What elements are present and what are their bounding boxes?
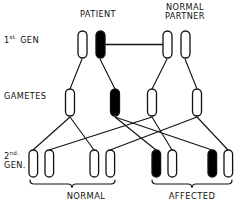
chromosome-gamete-1-normal	[66, 89, 75, 116]
header-partner-line2: PARTNER	[165, 11, 205, 21]
meiosis-line-patient-b	[100, 59, 115, 89]
fert-line-g4-o8	[197, 117, 228, 150]
gen2-offspring-2-normal	[90, 150, 115, 177]
fert-line-g2-o7	[115, 117, 212, 150]
chromosome-gamete-3-normal	[148, 89, 157, 116]
chromosome-offspring-2a-normal	[90, 150, 99, 177]
chromosome-offspring-4a-affected	[208, 150, 217, 177]
gametes-group	[66, 89, 202, 116]
chromosome-offspring-2b-normal	[106, 150, 115, 177]
meiosis-lines	[70, 59, 197, 89]
chromosome-gamete-4-normal	[193, 89, 202, 116]
fert-line-g1-o3	[70, 117, 94, 150]
chromosome-offspring-4b-normal	[224, 150, 233, 177]
fertilization-lines	[33, 117, 228, 150]
brace-normal	[30, 180, 115, 188]
chromosome-offspring-1a-normal	[29, 150, 38, 177]
chromosome-patient-affected	[96, 31, 105, 58]
chromosome-offspring-1b-normal	[45, 150, 54, 177]
gen2-text: GEN.	[4, 160, 26, 170]
chromosome-partner-normal-1	[163, 31, 172, 58]
chromosome-partner-normal-2	[181, 31, 190, 58]
gen2-offspring-1-normal	[29, 150, 54, 177]
footer-normal-group: NORMAL	[44, 192, 128, 201]
gen1-text: GEN	[20, 35, 39, 45]
gen1-patient-group	[78, 31, 105, 58]
header-normal-partner: NORMAL PARTNER	[152, 3, 218, 21]
row-label-gen1: 1st. GEN	[4, 34, 39, 45]
meiosis-line-partner-b	[185, 59, 197, 89]
chromosome-offspring-3a-affected	[152, 150, 161, 177]
row-label-gen2: 2nd.GEN.	[4, 150, 26, 169]
meiosis-line-patient-a	[70, 59, 82, 89]
header-patient: PATIENT	[68, 10, 128, 19]
footer-affected-group: AFFECTED	[150, 192, 234, 201]
gen2-offspring-4-affected	[208, 150, 233, 177]
fert-line-g4-o4	[110, 117, 197, 150]
brace-affected	[152, 180, 232, 188]
row-label-gametes: GAMETES	[4, 92, 46, 101]
chromosome-offspring-3b-normal	[168, 150, 177, 177]
pedigree-diagram: PATIENT NORMAL PARTNER 1st. GEN GAMETES …	[0, 0, 243, 211]
meiosis-line-partner-a	[152, 59, 167, 89]
chromosome-gamete-2-affected	[111, 89, 120, 116]
chromosome-patient-normal	[78, 31, 87, 58]
gen2-offspring-3-affected	[152, 150, 177, 177]
gen1-partner-group	[163, 31, 190, 58]
gen1-ordinal-suffix: st.	[10, 34, 18, 40]
gen2-ordinal-suffix: nd.	[10, 150, 19, 156]
pedigree-canvas	[0, 0, 243, 211]
